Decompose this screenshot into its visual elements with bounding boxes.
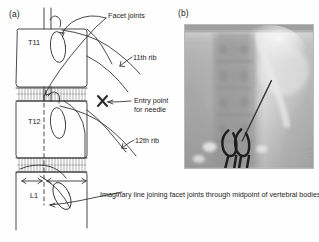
intervertebral-disc-t12-l1 bbox=[16, 158, 87, 172]
needle-entry-cross bbox=[98, 96, 107, 106]
radiograph-frame bbox=[184, 24, 314, 169]
panel-b-label: (b) bbox=[178, 8, 189, 18]
intervertebral-disc-t11-t12 bbox=[16, 88, 87, 101]
panel-b bbox=[184, 24, 314, 169]
vertebra-label-t11: T11 bbox=[28, 38, 40, 47]
annotation-eleventh-rib: 11th rib bbox=[133, 54, 156, 63]
vertebra-label-l1: L1 bbox=[30, 191, 38, 200]
radiograph-image bbox=[185, 25, 313, 168]
vertebra-label-t12: T12 bbox=[28, 117, 41, 126]
annotation-twelfth-rib: 12th rib bbox=[135, 137, 159, 146]
annotation-imaginary-line: Imaginary line joining facet joints thro… bbox=[100, 191, 172, 200]
annotation-entry-point: Entry point for needle bbox=[134, 96, 172, 114]
figure-container: (a) bbox=[0, 0, 319, 242]
annotation-facet-joints: Facet joints bbox=[108, 12, 145, 21]
panel-a: (a) bbox=[0, 0, 172, 242]
midpoint-width-arrows bbox=[22, 178, 86, 183]
spine-line-drawing bbox=[0, 0, 172, 242]
